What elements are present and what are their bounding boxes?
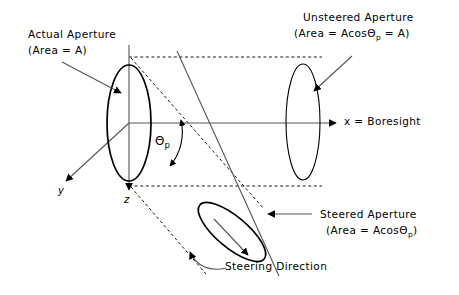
actual-aperture-leader [62,62,121,93]
steered-aperture-label-line1: Steered Aperture [320,207,417,222]
theta-arc-path [170,120,182,166]
y-axis-line [66,123,129,181]
unsteered-aperture-leader [314,56,352,91]
y-axis-label: y [58,185,64,196]
z-axis-label: z [124,194,129,205]
steering-direction-curve [190,252,226,269]
unsteered-area-suffix: = A) [381,27,410,39]
actual-aperture-label-line2: (Area = A) [28,43,87,58]
steered-theta-glyph: Θ [399,224,408,236]
unsteered-theta-glyph: Θ [367,27,376,39]
steered-aperture-label-line2: (Area = AcosΘp) [326,223,418,242]
aperture-projection-diagram: Actual Aperture (Area = A) Unsteered Ape… [0,0,459,295]
steering-direction-label: Steering Direction [225,259,327,274]
actual-aperture-label-line1: Actual Aperture [28,27,116,42]
unsteered-aperture-ellipse [286,64,320,180]
theta-p-label: Θp [155,134,170,150]
theta-subscript: p [164,140,169,150]
steered-area-suffix: ) [413,224,418,236]
steering-axis [177,51,279,276]
boresight-label: x = Boresight [344,114,421,129]
dashed-projection-bottom [131,187,206,274]
steering-direction-arrow [214,219,248,255]
theta-p-angle-arc [170,120,182,166]
unsteered-area-prefix: (Area = Acos [294,27,367,39]
steering-axis-line [177,51,279,276]
callout-leaders [62,56,352,269]
unsteered-aperture-label-line1: Unsteered Aperture [303,10,414,25]
unsteered-aperture-label-line2: (Area = AcosΘp = A) [294,26,410,45]
steered-area-prefix: (Area = Acos [326,224,399,236]
construction-dashed-lines [129,57,322,274]
